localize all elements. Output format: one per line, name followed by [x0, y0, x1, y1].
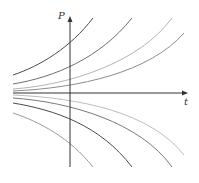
solution-curve-upper-4: [13, 33, 184, 91]
diagram-canvas: P t: [0, 0, 199, 183]
t-axis-label: t: [184, 97, 188, 107]
t-axis-arrow-icon: [182, 91, 188, 96]
solution-curve-upper-1: [13, 18, 93, 75]
p-axis-label: P: [58, 11, 65, 21]
solution-curve-lower-4: [13, 113, 93, 167]
solution-curves-plot: [0, 0, 199, 183]
solution-curve-lower-1: [13, 95, 184, 155]
axes-group: [13, 16, 188, 167]
solution-curve-lower-3: [13, 103, 132, 167]
p-axis-arrow-icon: [68, 16, 73, 22]
